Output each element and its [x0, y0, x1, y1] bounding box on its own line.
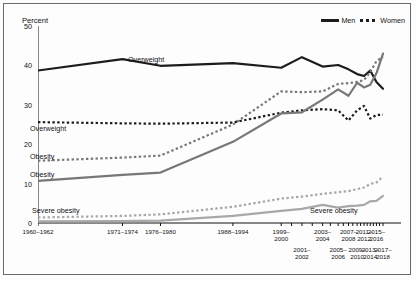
series-line-overweight-men — [38, 57, 383, 89]
y-tick-label: 0 — [14, 219, 32, 228]
series-label-women-overweight: Overweight — [30, 124, 66, 133]
y-tick-label: 50 — [14, 22, 32, 31]
legend-line-solid-icon — [321, 19, 339, 22]
x-tick-label: 2017–2018 — [366, 246, 400, 261]
x-tick-label: 1976–1980 — [140, 228, 180, 235]
y-tick-label: 40 — [14, 61, 32, 70]
legend-item-men: Men — [321, 16, 355, 25]
series-label-men-severe-obesity: Severe obesity — [310, 206, 358, 215]
legend-label-men: Men — [341, 16, 355, 25]
legend-item-women: Women — [360, 16, 405, 25]
x-tick-label: 1999–2000 — [261, 228, 301, 243]
y-tick-label: 20 — [14, 140, 32, 149]
x-tick-label: 2001–2002 — [285, 246, 319, 261]
series-label-women-obesity: Obesity — [30, 152, 54, 161]
y-tick-label: 30 — [14, 101, 32, 110]
plot-area — [38, 26, 383, 223]
chart-figure: Percent Men Women 01020304050 1960–19621… — [0, 0, 417, 281]
series-label-men-obesity: Obesity — [30, 170, 54, 179]
legend-line-dashed-icon — [360, 19, 378, 22]
series-label-men-overweight: Overweight — [128, 55, 164, 64]
legend-label-women: Women — [380, 16, 405, 25]
x-tick-label: 1988–1994 — [213, 228, 253, 235]
series-label-women-severe-obesity: Severe obesity — [32, 206, 80, 215]
x-tick-label: 1960–1962 — [18, 228, 58, 235]
y-tick-label: 10 — [14, 180, 32, 189]
series-line-overweight-women — [38, 106, 383, 124]
series-line-obesity-men — [38, 54, 383, 181]
x-tick-label: 1971–1974 — [103, 228, 143, 235]
x-tick-label: 2015–2016 — [356, 228, 396, 243]
chart-legend: Men Women — [321, 16, 405, 25]
